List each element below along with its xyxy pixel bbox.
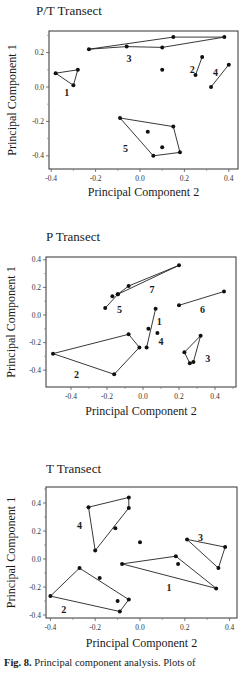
y-tick-label: -0.4 [29,611,41,620]
cluster-label: 1 [167,582,172,593]
cluster-group-2: 2 [48,566,130,615]
data-point [177,263,181,267]
x-tick-label: 0.0 [135,174,145,183]
x-tick-label: -0.2 [89,623,101,632]
cluster-group-7: 7 [116,263,181,296]
cluster-group-2: 2 [51,332,141,380]
data-point [103,306,107,310]
x-tick-label: 0.2 [180,174,190,183]
cluster-label: 5 [117,304,122,315]
data-point [216,566,220,570]
data-point [178,150,182,154]
cluster-label: 2 [190,64,195,75]
x-tick-label: 0.2 [180,623,190,632]
data-point [188,361,192,365]
cluster-group-4: 4 [155,331,163,347]
chart-panel-2: P Transect-0.4-0.20.00.20.4-0.4-0.20.00.… [4,229,236,418]
cluster-label: 2 [74,369,79,380]
data-point [227,63,231,67]
data-point [127,495,131,499]
cluster-label: 4 [159,336,164,347]
y-tick-label: 0.2 [32,527,42,536]
data-point [112,372,116,376]
cluster-hull [56,70,78,86]
data-point [222,35,226,39]
data-point [98,576,102,580]
x-axis-label: Principal Component 2 [86,636,197,650]
y-tick-label: -0.2 [32,117,44,126]
figure-caption: Fig. 8. Principal component analysis. Pl… [4,657,196,668]
chart-title: T Transect [46,461,101,476]
y-tick-label: 0.4 [32,255,42,264]
y-axis-label: Principal Component 1 [4,266,18,377]
data-point [86,505,90,509]
data-point [87,47,91,51]
cluster-hull [53,334,139,374]
y-tick-label: 0.2 [35,48,45,57]
data-point [110,294,114,298]
cluster-label: 7 [150,284,155,295]
y-tick-label: 0.0 [32,555,42,564]
plot-frame [46,487,237,618]
y-tick-label: 0.0 [35,83,45,92]
chart-panel-3: T Transect-0.4-0.20.00.20.4-0.4-0.20.00.… [4,461,237,650]
cluster-label: 3 [198,532,203,543]
data-point [145,345,149,349]
data-point [48,594,52,598]
data-point [185,537,189,541]
cluster-hull [89,37,225,49]
x-tick-label: -0.2 [90,174,102,183]
data-point [176,562,180,566]
pca-figure: P/T Transect-0.4-0.20.00.20.4-0.4-0.20.0… [0,0,239,678]
data-point [177,303,181,307]
y-axis-label: Principal Component 1 [4,497,18,608]
data-point [54,71,58,75]
cluster-group-4: 4 [209,63,231,89]
cluster-hull [89,497,129,550]
data-point [93,549,97,553]
y-tick-label: -0.4 [29,366,41,375]
x-tick-label: 0.4 [225,623,235,632]
cluster-line [179,292,224,306]
data-point [116,599,120,603]
caption-text: Principal component analysis. Plots of [34,657,195,668]
chart-title: P Transect [46,229,100,244]
cluster-line [196,57,203,75]
data-point [127,284,131,288]
cluster-label: 3 [126,53,131,64]
data-point [146,130,150,134]
cluster-group-5: 5 [103,292,122,315]
plot-frame [46,257,236,387]
isolated-point [146,327,150,331]
data-point [209,85,213,89]
data-point [200,55,204,59]
cluster-hull [184,336,200,364]
y-tick-label: -0.2 [29,583,41,592]
data-point [71,83,75,87]
data-point [120,562,124,566]
data-point [182,350,186,354]
cluster-group-3: 3 [87,35,226,64]
isolated-point [160,68,164,72]
cluster-hull [120,118,180,156]
data-point [113,526,117,530]
data-point [154,307,158,311]
x-axis-label: Principal Component 2 [88,185,199,199]
x-tick-label: 0.4 [224,174,234,183]
x-tick-label: -0.4 [65,392,77,401]
cluster-group-2: 2 [190,55,204,77]
data-point [78,566,82,570]
y-tick-label: 0.2 [32,283,42,292]
data-point [137,345,141,349]
plot-frame [49,31,238,169]
cluster-group-6: 6 [177,290,226,316]
cluster-label: 2 [61,604,66,615]
y-tick-label: 0.4 [32,499,42,508]
cluster-group-3: 3 [185,532,227,570]
cluster-group-1: 1 [120,554,218,593]
data-point [171,125,175,129]
x-tick-label: 0.4 [210,392,220,401]
data-point [160,45,164,49]
cluster-group-1: 1 [54,68,80,98]
cluster-label: 5 [123,143,128,154]
